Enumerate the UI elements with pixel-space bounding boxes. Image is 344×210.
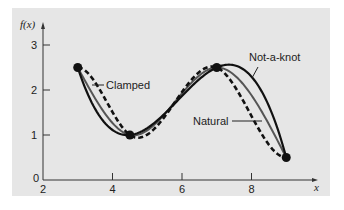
y-tick-label: 1 bbox=[31, 129, 37, 141]
y-axis-arrow-icon bbox=[41, 22, 45, 29]
x-tick-label: 8 bbox=[249, 183, 255, 195]
data-point-marker bbox=[282, 153, 291, 162]
not-a-knot-leader-line bbox=[252, 67, 258, 78]
not-a-knot-label: Not-a-knot bbox=[249, 51, 300, 63]
x-tick-label: 4 bbox=[110, 183, 116, 195]
clamped-label: Clamped bbox=[106, 79, 150, 91]
axes bbox=[41, 22, 318, 182]
natural-label: Natural bbox=[193, 115, 228, 127]
x-tick-label: 6 bbox=[179, 183, 185, 195]
data-point-marker bbox=[212, 63, 221, 72]
data-points bbox=[73, 63, 291, 162]
y-tick-label: 0 bbox=[33, 172, 39, 184]
data-point-marker bbox=[125, 131, 134, 140]
x-tick-label: 2 bbox=[40, 183, 46, 195]
data-point-marker bbox=[73, 63, 82, 72]
y-axis-label: f(x) bbox=[20, 18, 36, 31]
spline-chart: 24680123 f(x) x Clamped Not-a-knot Natur… bbox=[0, 0, 344, 210]
x-axis-label: x bbox=[313, 181, 319, 193]
y-tick-label: 2 bbox=[31, 84, 37, 96]
y-tick-label: 3 bbox=[31, 39, 37, 51]
